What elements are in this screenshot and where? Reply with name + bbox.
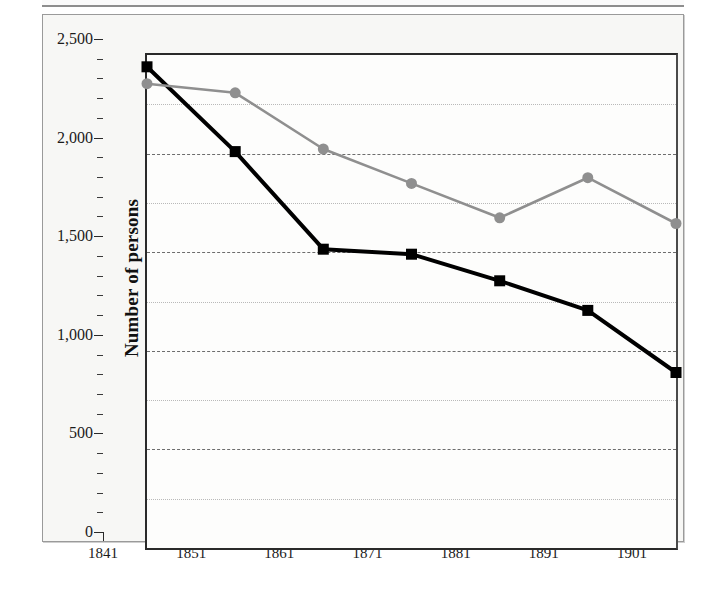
left-tick-minor [97, 473, 103, 474]
data-point-square [582, 305, 593, 316]
left-tick-minor [97, 276, 103, 277]
chart-figure: Number of persons Number of houses 05001… [0, 0, 723, 597]
x-tick [103, 532, 104, 541]
left-tick-minor [97, 78, 103, 79]
left-tick-minor [97, 374, 103, 375]
left-tick-minor [97, 177, 103, 178]
data-point-circle [671, 218, 682, 229]
series-lines [147, 55, 676, 548]
left-tick-minor [97, 512, 103, 513]
left-tick-minor [97, 157, 103, 158]
left-tick-minor [97, 216, 103, 217]
x-axis-label: 1841 [88, 545, 118, 562]
figure-frame: Number of persons Number of houses 05001… [42, 14, 684, 542]
top-panel-edge [42, 0, 684, 7]
left-tick-minor [97, 295, 103, 296]
left-tick-minor [97, 355, 103, 356]
left-tick-minor [97, 118, 103, 119]
left-tick-major [94, 138, 103, 139]
series-line-1 [147, 67, 676, 373]
data-point-square [142, 61, 153, 72]
left-tick-minor [97, 98, 103, 99]
data-point-circle [230, 87, 241, 98]
left-tick-major [94, 433, 103, 434]
data-point-circle [318, 144, 329, 155]
left-tick-minor [97, 453, 103, 454]
data-point-circle [494, 212, 505, 223]
data-point-square [230, 146, 241, 157]
left-tick-minor [97, 256, 103, 257]
left-tick-minor [97, 197, 103, 198]
left-tick-minor [97, 414, 103, 415]
left-axis-label: 1,000 [23, 326, 93, 344]
left-tick-major [94, 532, 103, 533]
left-tick-minor [97, 315, 103, 316]
left-tick-minor [97, 493, 103, 494]
left-axis-label: 0 [23, 523, 93, 541]
data-point-square [406, 249, 417, 260]
left-axis-title: Number of persons [121, 199, 143, 357]
data-point-square [318, 244, 329, 255]
left-tick-major [94, 236, 103, 237]
data-point-circle [406, 178, 417, 189]
left-tick-minor [97, 394, 103, 395]
left-axis-label: 500 [23, 424, 93, 442]
data-point-square [494, 275, 505, 286]
left-axis-label: 1,500 [23, 227, 93, 245]
left-tick-major [94, 335, 103, 336]
left-axis-label: 2,000 [23, 129, 93, 147]
series-line-2 [147, 84, 676, 224]
plot-area [145, 53, 678, 550]
left-tick-major [94, 39, 103, 40]
left-tick-minor [97, 59, 103, 60]
left-axis-label: 2,500 [23, 30, 93, 48]
data-point-circle [582, 172, 593, 183]
data-point-circle [142, 78, 153, 89]
data-point-square [671, 367, 682, 378]
